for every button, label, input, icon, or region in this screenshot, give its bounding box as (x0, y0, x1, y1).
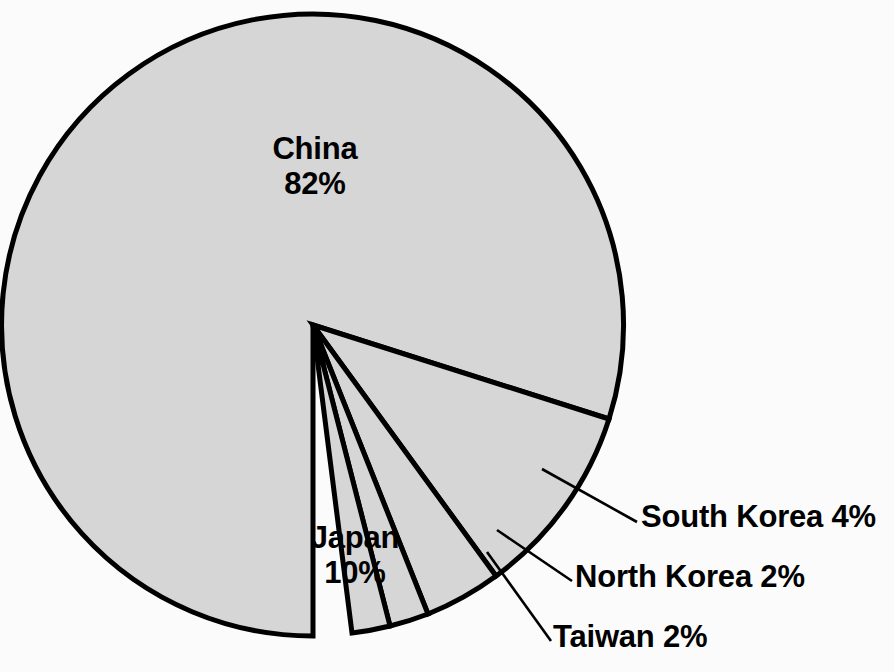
leader-line-taiwan (487, 552, 551, 641)
pie-label-japan: Japan 10% (255, 521, 455, 590)
pie-label-china: China 82% (180, 132, 450, 201)
pie-label-north-korea: North Korea 2% (575, 560, 805, 595)
pie-label-taiwan: Taiwan 2% (553, 620, 707, 655)
pie-label-japan-name: Japan (311, 520, 400, 555)
pie-label-china-name: China (272, 131, 357, 166)
pie-label-china-value: 82% (180, 167, 450, 202)
pie-chart-page: China 82% Japan 10% South Korea 4% North… (0, 0, 894, 672)
pie-label-japan-value: 10% (255, 556, 455, 591)
pie-label-south-korea: South Korea 4% (641, 500, 876, 535)
